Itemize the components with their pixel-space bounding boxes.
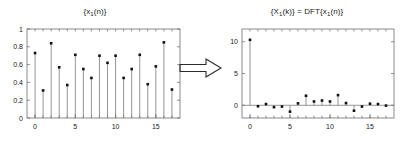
- stem: [90, 77, 93, 118]
- stem: [58, 66, 61, 118]
- stem-marker: [58, 66, 61, 69]
- stem: [50, 42, 53, 118]
- stem-marker: [122, 77, 125, 80]
- stem-marker: [305, 94, 308, 97]
- stem: [297, 102, 300, 105]
- stem: [249, 39, 252, 106]
- stem: [289, 105, 292, 113]
- stem-marker: [146, 83, 149, 86]
- y-tick-label: 0.6: [13, 61, 23, 68]
- stem-marker: [313, 100, 316, 103]
- stem-marker: [281, 105, 284, 108]
- x-tick-label: 5: [288, 123, 292, 130]
- stem-marker: [74, 54, 77, 57]
- stem-marker: [82, 68, 85, 71]
- right-plot-svg: 0510051015: [212, 0, 402, 148]
- stem: [329, 100, 332, 105]
- stem: [82, 68, 85, 118]
- stem-marker: [385, 104, 388, 107]
- stem-marker: [34, 52, 37, 55]
- stem-marker: [297, 102, 300, 105]
- stem: [337, 94, 340, 105]
- y-tick-label: 5: [234, 70, 238, 77]
- stem: [313, 100, 316, 105]
- stem: [369, 102, 372, 105]
- stem: [321, 99, 324, 105]
- stem-marker: [249, 39, 252, 42]
- x-tick-label: 0: [33, 123, 37, 130]
- stem-marker: [163, 41, 166, 44]
- stem: [130, 68, 133, 118]
- stem-marker: [369, 102, 372, 105]
- stem-marker: [50, 42, 53, 45]
- stem: [163, 41, 166, 118]
- stem: [122, 77, 125, 118]
- left-plot-panel: {x1(n)} 00.20.40.60.81051015: [0, 0, 190, 148]
- stem: [273, 105, 276, 108]
- stem: [257, 105, 260, 108]
- stem: [66, 84, 69, 118]
- dft-figure: {x1(n)} 00.20.40.60.81051015 {X1(k)} = D…: [0, 0, 402, 148]
- stem: [281, 105, 284, 108]
- y-tick-label: 0.8: [13, 43, 23, 50]
- stem-marker: [289, 110, 292, 113]
- stem-marker: [106, 62, 109, 65]
- x-tick-label: 10: [326, 123, 334, 130]
- x-tick-label: 10: [112, 123, 120, 130]
- stem-marker: [265, 103, 268, 106]
- stem: [305, 94, 308, 105]
- stem-marker: [155, 65, 158, 68]
- stem: [385, 104, 388, 107]
- stem: [345, 102, 348, 106]
- stem-marker: [321, 99, 324, 102]
- y-tick-label: 1: [19, 26, 23, 33]
- stem-marker: [257, 105, 260, 108]
- x-tick-label: 0: [248, 123, 252, 130]
- stem-marker: [345, 102, 348, 105]
- right-plot-panel: {X1(k)} = DFT{x1(n)} 0510051015: [212, 0, 402, 148]
- stem: [106, 62, 109, 118]
- stem-marker: [377, 103, 380, 106]
- stem: [98, 54, 101, 118]
- x-tick-label: 15: [366, 123, 374, 130]
- stem-marker: [66, 84, 69, 87]
- stem-marker: [90, 77, 93, 80]
- stem: [74, 54, 77, 118]
- stem: [361, 105, 364, 108]
- y-tick-label: 0: [19, 115, 23, 122]
- stem-marker: [114, 54, 117, 57]
- x-tick-label: 15: [152, 123, 160, 130]
- y-tick-label: 10: [230, 38, 238, 45]
- stem: [353, 105, 356, 112]
- stem-marker: [138, 54, 141, 57]
- x-tick-label: 5: [73, 123, 77, 130]
- y-tick-label: 0: [234, 102, 238, 109]
- y-tick-label: 0.4: [13, 79, 23, 86]
- stem: [146, 83, 149, 118]
- stem-marker: [171, 88, 174, 91]
- stem: [42, 89, 45, 118]
- stem-marker: [98, 54, 101, 57]
- stem-marker: [42, 89, 45, 92]
- stem-marker: [361, 105, 364, 108]
- stem-marker: [337, 94, 340, 97]
- stem-marker: [353, 109, 356, 112]
- stem: [171, 88, 174, 118]
- stem: [34, 52, 37, 118]
- stem: [138, 54, 141, 118]
- stem-marker: [273, 106, 276, 109]
- stem: [265, 103, 268, 106]
- stem: [377, 103, 380, 106]
- stem-marker: [329, 100, 332, 103]
- left-plot-svg: 00.20.40.60.81051015: [0, 0, 190, 148]
- stem: [155, 65, 158, 118]
- stem: [114, 54, 117, 118]
- stem-marker: [130, 68, 133, 71]
- y-tick-label: 0.2: [13, 97, 23, 104]
